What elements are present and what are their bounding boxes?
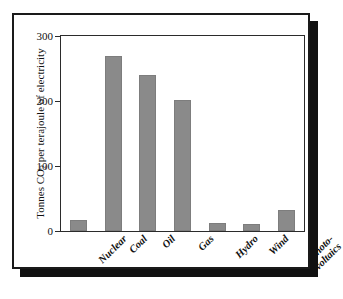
bar-photo-voltaics [278, 210, 295, 231]
bar-wind [243, 224, 260, 231]
y-axis-title-pre: Tonnes CO [34, 169, 46, 219]
bar-gas [174, 100, 191, 231]
y-tick-mark [55, 101, 61, 102]
bar-oil [139, 75, 156, 231]
x-axis-label-line: Wind [267, 233, 291, 257]
x-axis-label-coal: Coal [127, 233, 149, 255]
bar-hydro [209, 223, 226, 231]
x-axis-label-nuclear: Nuclear [97, 233, 130, 266]
y-tick-label: 300 [37, 31, 54, 42]
x-axis-label-line: Coal [127, 233, 149, 255]
y-axis-title-post: per terajoule of electricity [34, 48, 46, 165]
x-axis-label-line: Gas [195, 233, 215, 253]
y-axis-title: Tonnes CO2 per terajoule of electricity [32, 35, 48, 232]
x-axis-label-oil: Oil [160, 233, 177, 250]
y-tick-mark [55, 231, 61, 232]
x-axis-label-line: Oil [160, 233, 177, 250]
bar-nuclear [70, 220, 87, 231]
x-axis-label-wind: Wind [267, 233, 291, 257]
y-tick-mark [55, 166, 61, 167]
figure-frame: Tonnes CO2 per terajoule of electricity … [12, 13, 310, 269]
plot-area: 0100200300 [60, 35, 305, 232]
y-tick-label: 200 [37, 96, 54, 107]
x-axis-label-gas: Gas [195, 233, 215, 253]
y-tick-mark [55, 36, 61, 37]
x-axis-label-line: Nuclear [97, 233, 130, 266]
bar-chart: Tonnes CO2 per terajoule of electricity … [14, 15, 308, 267]
y-tick-label: 100 [37, 161, 54, 172]
bar-coal [105, 56, 122, 232]
x-axis-labels: NuclearCoalOilGasHydroWindPhoto-voltaics [60, 233, 305, 293]
x-axis-label-hydro: Hydro [233, 233, 260, 260]
x-axis-label-line: Hydro [233, 233, 260, 260]
y-tick-label: 0 [48, 226, 54, 237]
